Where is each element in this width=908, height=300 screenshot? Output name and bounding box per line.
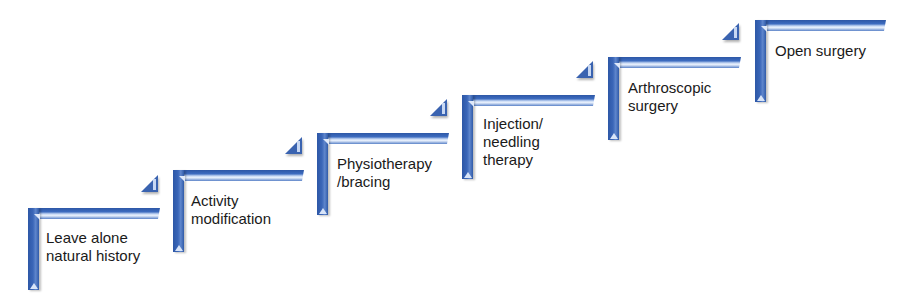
step-arrow-icon: [141, 175, 158, 192]
step-tread: [755, 20, 886, 31]
step-riser: [608, 57, 619, 140]
step-tread: [608, 57, 741, 68]
step-label: Open surgery: [775, 42, 866, 60]
step-riser: [317, 133, 328, 215]
step-label: Injection/ needling therapy: [483, 115, 543, 169]
step-arrow-icon: [430, 99, 447, 116]
step-arrow-icon: [285, 137, 302, 154]
step-label: Activity modification: [191, 192, 271, 228]
step-label: Physiotherapy /bracing: [337, 155, 432, 191]
step-tread: [28, 208, 160, 219]
step-riser: [462, 95, 473, 179]
step-riser: [173, 170, 184, 252]
step-tread: [173, 170, 304, 181]
step-tread: [317, 133, 449, 144]
step-label: Leave alone natural history: [46, 229, 140, 265]
step-arrow-icon: [576, 61, 593, 78]
step-label: Arthroscopic surgery: [628, 79, 711, 115]
step-tread: [462, 95, 595, 106]
step-riser: [755, 20, 766, 102]
step-riser: [28, 208, 39, 290]
step-arrow-icon: [722, 23, 739, 40]
